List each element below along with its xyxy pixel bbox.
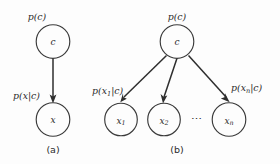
panel-b-caption: (b): [170, 144, 183, 155]
panel-a-prior-label: p(c): [28, 11, 47, 22]
panel-b-edge-c-to-x2: [164, 58, 177, 97]
panel-a-conditional-label: p(x|c): [13, 90, 40, 102]
panel-b-arrowhead-xn: [221, 93, 230, 102]
graphical-model-diagram: p(c) c x p(x|c) (a) p(c) c x1: [0, 0, 280, 164]
panel-b-node-c-label: c: [174, 37, 179, 47]
panel-b-conditional-label-last: p(xn|c): [231, 82, 263, 95]
panel-b-edge-c-to-xn: [189, 56, 227, 98]
panel-b-conditional-label-first: p(x1|c): [92, 85, 124, 98]
panel-a-node-c-label: c: [50, 37, 55, 47]
panel-a-node-x-label: x: [50, 115, 55, 125]
panel-b-edge-c-to-x1: [124, 56, 167, 98]
panel-b-prior-label: p(c): [168, 11, 187, 22]
panel-a-caption: (a): [46, 144, 59, 155]
panel-b-ellipsis: ⋯: [191, 113, 203, 126]
figure-container: p(c) c x p(x|c) (a) p(c) c x1: [0, 0, 280, 164]
